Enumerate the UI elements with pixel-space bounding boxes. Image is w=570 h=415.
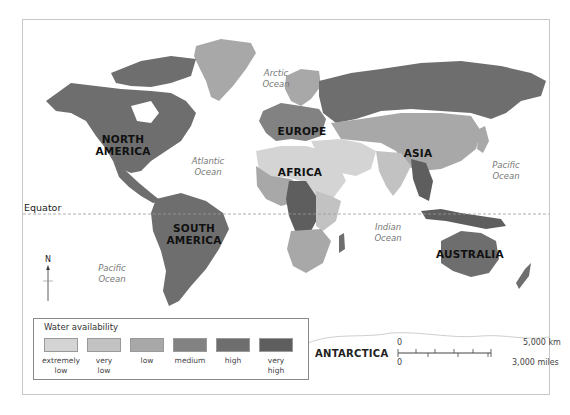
label-australia: AUSTRALIA — [436, 248, 500, 260]
legend-label-high: high — [212, 356, 254, 366]
legend-label-line1: medium — [169, 356, 211, 366]
legend: Water availability extremely low very lo… — [33, 318, 309, 380]
label-pacific-east-line2: Ocean — [486, 171, 526, 182]
scale-mi-label: 3,000 miles — [512, 358, 559, 367]
label-arctic-line2: Ocean — [256, 79, 296, 90]
legend-items: extremely low very low low medium — [44, 338, 293, 376]
equator-label: Equator — [24, 202, 61, 213]
label-antarctica: ANTARCTICA — [315, 348, 389, 359]
legend-item-very-low: very low — [87, 338, 121, 376]
legend-label-line1: very — [255, 356, 297, 366]
scale-mi-zero: 0 — [397, 358, 402, 367]
label-atlantic-line2: Ocean — [186, 167, 230, 178]
label-pacific-east-line1: Pacific — [486, 160, 526, 171]
legend-label-very-high: very high — [255, 356, 297, 376]
south-america-land — [151, 193, 229, 306]
greenland — [194, 39, 256, 101]
madagascar — [339, 233, 345, 253]
legend-swatch-very-low — [87, 338, 121, 352]
legend-item-low: low — [130, 338, 164, 376]
label-arctic-line1: Arctic — [256, 68, 296, 79]
legend-item-extremely-low: extremely low — [44, 338, 78, 376]
legend-item-very-high: very high — [259, 338, 293, 376]
legend-item-medium: medium — [173, 338, 207, 376]
north-arrow: N — [43, 255, 53, 303]
north-america-land — [46, 83, 196, 173]
arctic-islands — [111, 56, 196, 87]
legend-label-extremely-low: extremely low — [40, 356, 82, 376]
label-asia: ASIA — [398, 147, 438, 159]
label-north-america-line1: NORTH — [88, 133, 158, 145]
legend-label-line2: low — [83, 366, 125, 376]
label-europe: EUROPE — [274, 125, 330, 137]
label-indian-ocean: Indian Ocean — [368, 222, 408, 244]
label-south-america-line1: SOUTH — [164, 222, 224, 234]
legend-label-line1: high — [212, 356, 254, 366]
legend-item-high: high — [216, 338, 250, 376]
label-south-america-line2: AMERICA — [164, 234, 224, 246]
label-indian-line1: Indian — [368, 222, 408, 233]
africa-south — [287, 229, 331, 273]
legend-label-line2: low — [40, 366, 82, 376]
label-pacific-ocean-west: Pacific Ocean — [92, 263, 132, 285]
legend-label-line1: very — [83, 356, 125, 366]
legend-swatch-medium — [173, 338, 207, 352]
label-atlantic-line1: Atlantic — [186, 156, 230, 167]
label-atlantic-ocean: Atlantic Ocean — [186, 156, 230, 178]
label-pacific-west-line2: Ocean — [92, 274, 132, 285]
new-zealand — [516, 263, 531, 289]
label-pacific-ocean-east: Pacific Ocean — [486, 160, 526, 182]
label-north-america-line2: AMERICA — [88, 145, 158, 157]
scale-bar: 0 5,000 km 0 3,000 miles — [397, 338, 570, 378]
label-africa: AFRICA — [272, 166, 328, 178]
legend-label-very-low: very low — [83, 356, 125, 376]
label-south-america: SOUTH AMERICA — [164, 222, 224, 246]
scale-km-zero: 0 — [397, 338, 402, 347]
africa-east — [316, 191, 341, 231]
label-indian-line2: Ocean — [368, 233, 408, 244]
legend-swatch-low — [130, 338, 164, 352]
label-north-america: NORTH AMERICA — [88, 133, 158, 157]
label-arctic-ocean: Arctic Ocean — [256, 68, 296, 90]
legend-label-medium: medium — [169, 356, 211, 366]
legend-swatch-very-high — [259, 338, 293, 352]
scale-km-label: 5,000 km — [523, 338, 561, 347]
legend-swatch-high — [216, 338, 250, 352]
legend-title: Water availability — [44, 322, 118, 332]
legend-label-low: low — [126, 356, 168, 366]
legend-label-line1: extremely — [40, 356, 82, 366]
label-pacific-west-line1: Pacific — [92, 263, 132, 274]
legend-label-line1: low — [126, 356, 168, 366]
legend-label-line2: high — [255, 366, 297, 376]
legend-swatch-extremely-low — [44, 338, 78, 352]
indonesia — [421, 209, 506, 229]
north-arrow-icon — [43, 255, 53, 303]
